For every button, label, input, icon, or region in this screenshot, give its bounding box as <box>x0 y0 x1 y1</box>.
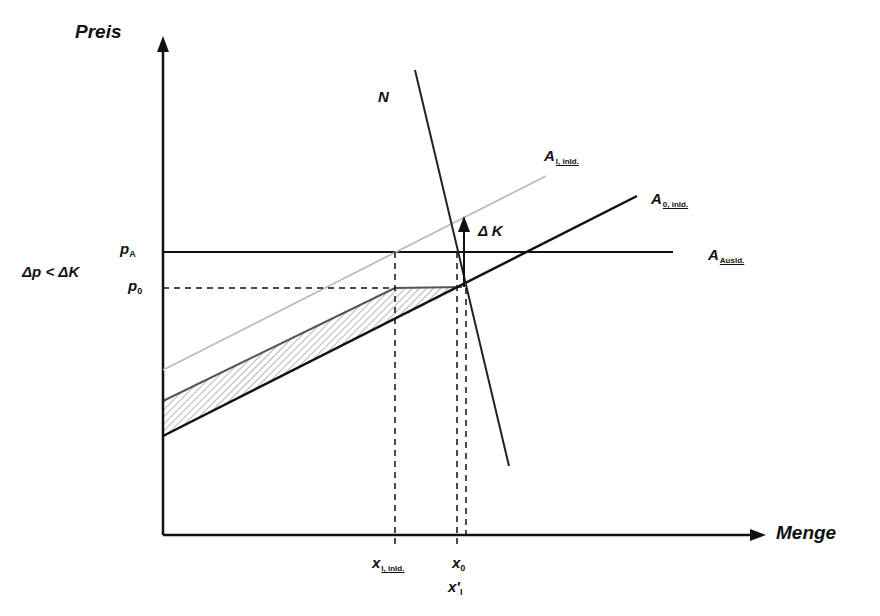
hatch-top-edge <box>395 287 462 288</box>
delta-k-arrow-icon <box>458 216 470 232</box>
a-ausld-sub: Ausld. <box>720 256 744 265</box>
curve-label-a-i-inld: AI, inld. <box>544 147 579 166</box>
x-tick-x-i-prime: x'I <box>448 578 462 597</box>
curve-a-i-inld <box>163 176 546 370</box>
p0-text: p <box>128 277 137 294</box>
pa-text: p <box>120 240 129 257</box>
a-i-sub: I, inld. <box>556 157 579 166</box>
economics-diagram <box>0 0 880 616</box>
x-tick-x-i-inld: xI, inld. <box>372 554 404 573</box>
curve-label-n: N <box>378 88 389 105</box>
price-label-pa: pA <box>120 240 136 259</box>
x-axis-arrow-icon <box>750 529 766 541</box>
price-label-p0: p0 <box>128 277 142 296</box>
curve-label-a-0-inld: A0, inld. <box>651 190 688 209</box>
delta-k-label: Δ K <box>478 222 503 239</box>
curve-a-0-inld <box>163 196 637 436</box>
x-axis-label: Menge <box>776 522 836 544</box>
y-axis-arrow-icon <box>157 36 169 52</box>
pa-sub: A <box>129 249 136 259</box>
a-ausld-text: A <box>708 246 719 263</box>
delta-p-annotation: Δp < ΔK <box>22 263 79 280</box>
x-i-prime-sub: I <box>460 587 463 597</box>
x-0-sub: 0 <box>460 563 465 573</box>
x-i-inld-sub: I, inld. <box>381 564 404 573</box>
x-i-prime-text: x' <box>448 578 460 595</box>
x-i-inld-text: x <box>372 554 380 571</box>
p0-sub: 0 <box>137 286 142 296</box>
a-0-sub: 0, inld. <box>663 200 688 209</box>
a-0-text: A <box>651 190 662 207</box>
a-i-text: A <box>544 147 555 164</box>
y-axis-label: Preis <box>75 21 121 43</box>
x-tick-x-0: x0 <box>452 554 465 573</box>
hatch-upper-edge <box>163 288 395 401</box>
curve-label-a-ausld: AAusld. <box>708 246 744 265</box>
